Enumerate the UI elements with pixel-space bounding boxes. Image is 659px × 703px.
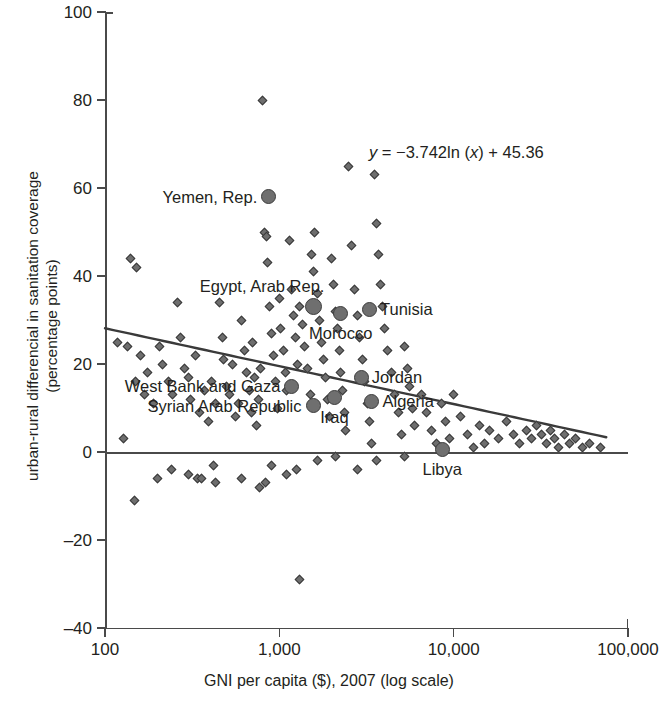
y-tick-label-20: 20 bbox=[40, 356, 92, 373]
equation-y-symbol: y bbox=[369, 143, 377, 161]
country-label-syrian-arab-republic: Syrian Arab Republic bbox=[147, 398, 301, 415]
country-marker-tunisia[interactable] bbox=[362, 302, 377, 317]
equation-x-symbol: x bbox=[470, 143, 478, 161]
country-marker-libya[interactable] bbox=[435, 442, 450, 457]
country-label-west-bank-and-gaza: West Bank and Gaza bbox=[125, 378, 281, 395]
x-tick-100 bbox=[104, 628, 106, 637]
x-tick-1000 bbox=[279, 628, 281, 637]
x-tick-10000 bbox=[453, 628, 455, 637]
y-tick-label-80: 80 bbox=[40, 92, 92, 109]
x-tick-label-100000: 100,000 bbox=[597, 641, 658, 658]
equation-body: = −3.742ln ( bbox=[377, 143, 470, 161]
plot-area: Yemen, Rep.Egypt, Arab Rep.MoroccoTunisi… bbox=[105, 12, 628, 628]
country-label-iraq: Iraq bbox=[320, 409, 348, 426]
y-tick-label--20: –20 bbox=[40, 532, 92, 549]
country-label-morocco: Morocco bbox=[309, 325, 372, 342]
country-label-tunisia: Tunisia bbox=[380, 301, 433, 318]
x-tick-100000 bbox=[627, 628, 629, 637]
country-marker-jordan[interactable] bbox=[354, 370, 369, 385]
y-tick-label--40: –40 bbox=[40, 620, 92, 637]
y-tick-label-40: 40 bbox=[40, 268, 92, 285]
y-tick-label-0: 0 bbox=[40, 444, 92, 461]
regression-equation-annotation: y = −3.742ln (x) + 45.36 bbox=[369, 143, 544, 161]
country-label-yemen-rep: Yemen, Rep. bbox=[162, 189, 257, 206]
y-tick-label-100: 100 bbox=[40, 4, 92, 21]
country-label-jordan: Jordan bbox=[372, 369, 422, 386]
x-tick-label-100: 100 bbox=[91, 641, 119, 658]
country-marker-west-bank-and-gaza[interactable] bbox=[284, 379, 299, 394]
x-axis-title: GNI per capita ($), 2007 (log scale) bbox=[0, 672, 658, 690]
equation-tail: ) + 45.36 bbox=[478, 143, 544, 161]
country-label-libya: Libya bbox=[423, 461, 462, 478]
x-tick-label-10000: 10,000 bbox=[428, 641, 480, 658]
logarithmic-trendline bbox=[105, 12, 628, 628]
country-label-egypt-arab-rep: Egypt, Arab Rep. bbox=[200, 278, 325, 295]
country-label-algeria: Algeria bbox=[382, 393, 433, 410]
country-marker-iraq[interactable] bbox=[327, 390, 342, 405]
country-marker-syrian-arab-republic[interactable] bbox=[306, 398, 321, 413]
y-tick-label-60: 60 bbox=[40, 180, 92, 197]
x-tick-label-1000: 1,000 bbox=[258, 641, 301, 658]
